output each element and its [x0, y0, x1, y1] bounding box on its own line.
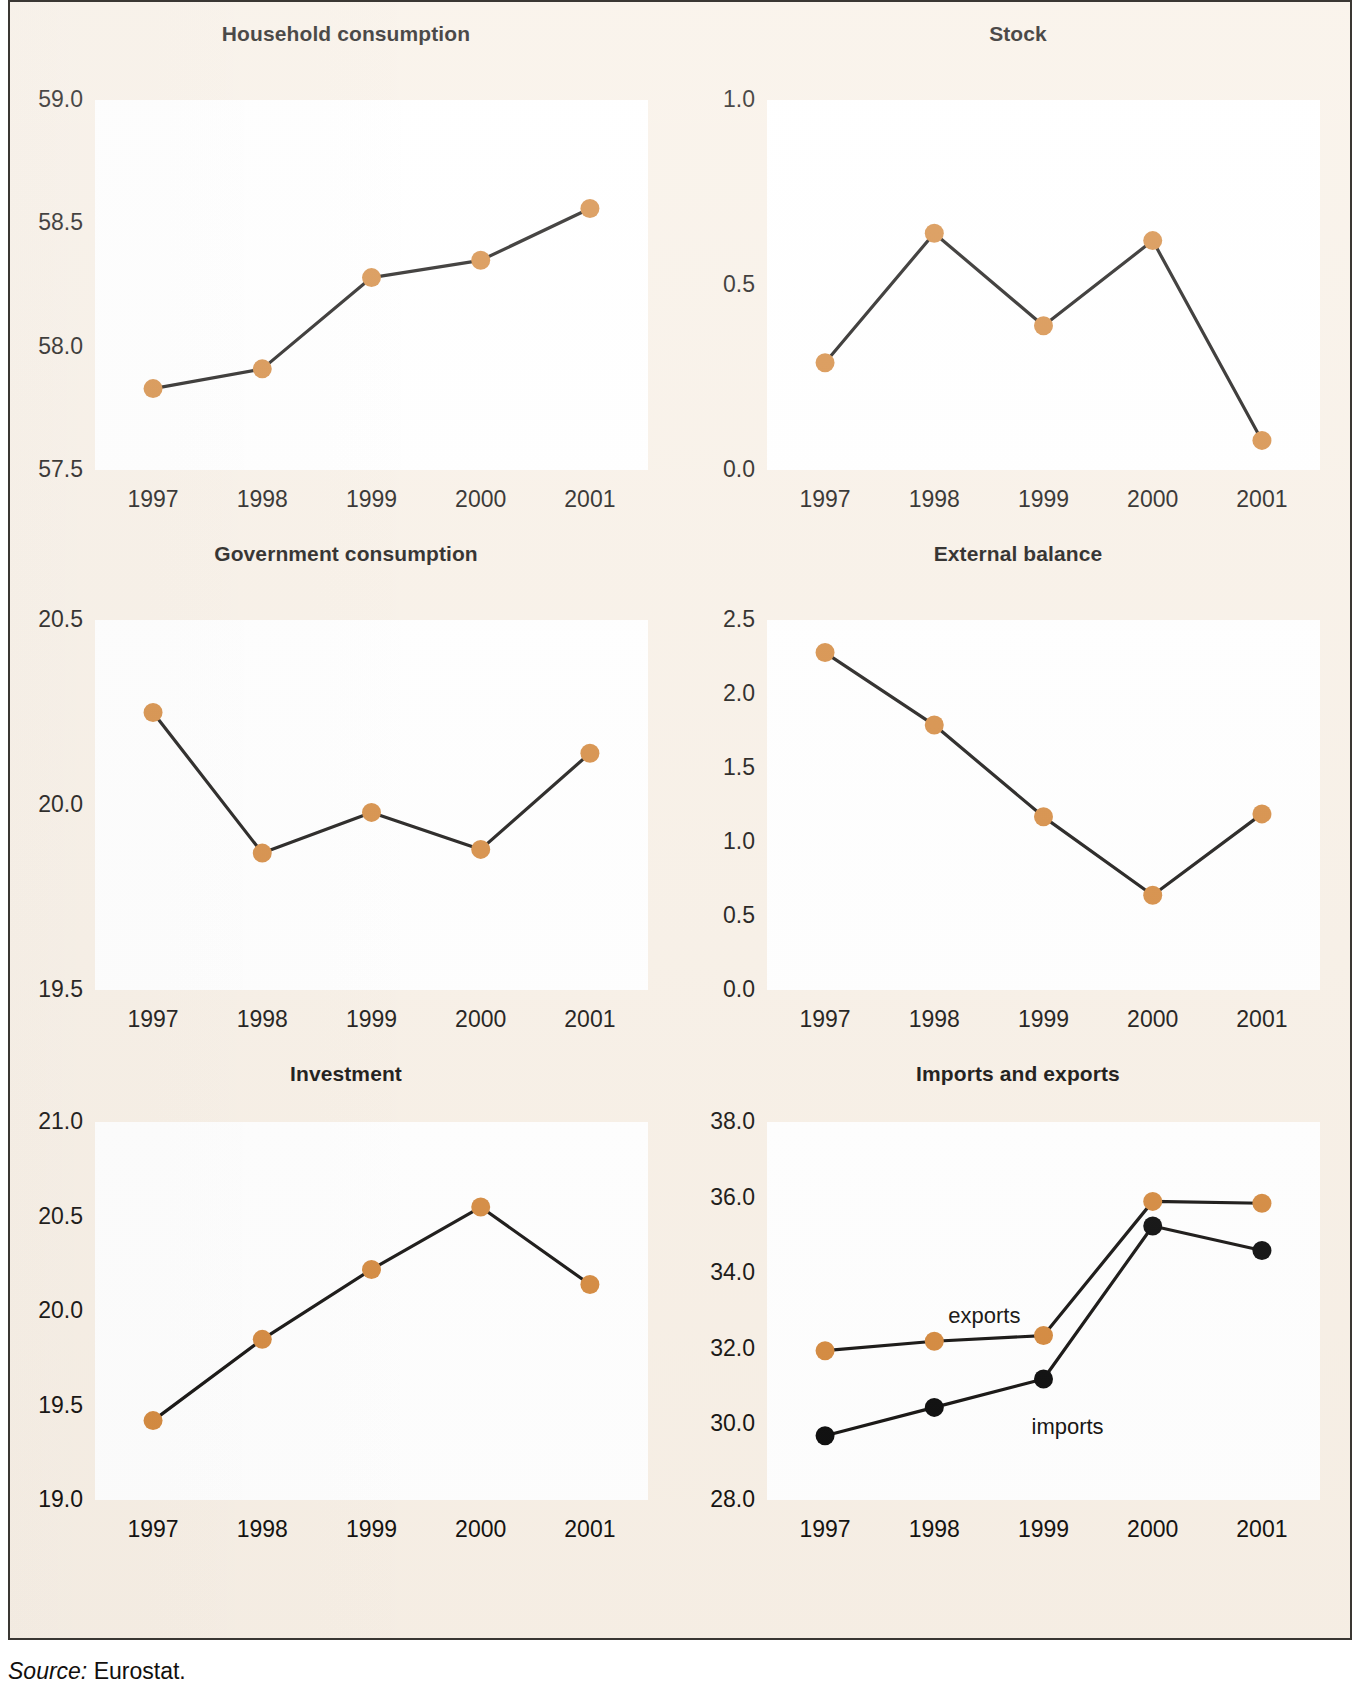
data-point-marker — [1252, 1194, 1271, 1213]
source-value: Eurostat. — [94, 1658, 186, 1684]
data-point-marker — [580, 744, 599, 763]
data-point-marker — [253, 359, 272, 378]
data-point-marker — [925, 716, 944, 735]
data-point-marker — [1143, 1216, 1162, 1235]
data-point-marker — [816, 353, 835, 372]
series-layer — [10, 22, 682, 522]
data-point-marker — [1034, 1370, 1053, 1389]
series-layer — [10, 542, 682, 1042]
data-point-marker — [362, 268, 381, 287]
data-point-marker — [1252, 804, 1271, 823]
data-point-marker — [362, 803, 381, 822]
data-point-marker — [580, 1275, 599, 1294]
series-annotation-exports: exports — [948, 1305, 1020, 1327]
data-point-marker — [580, 199, 599, 218]
chart-household-consumption: Household consumption 57.558.058.559.019… — [10, 22, 682, 522]
series-layer — [10, 1062, 682, 1572]
data-point-marker — [471, 251, 490, 270]
series-annotation-imports: imports — [1032, 1416, 1104, 1438]
data-point-marker — [925, 1398, 944, 1417]
chart-external-balance: External balance 0.00.51.01.52.02.519971… — [682, 542, 1354, 1042]
data-point-marker — [925, 224, 944, 243]
series-line-investment — [153, 1207, 590, 1421]
data-point-marker — [1034, 1326, 1053, 1345]
data-point-marker — [144, 379, 163, 398]
chart-government-consumption: Government consumption 19.520.020.519971… — [10, 542, 682, 1042]
series-line-government-consumption — [153, 713, 590, 854]
data-point-marker — [362, 1260, 381, 1279]
source-note: Source: Eurostat. — [8, 1658, 186, 1685]
figure-panel: Household consumption 57.558.058.559.019… — [8, 0, 1352, 1640]
data-point-marker — [253, 844, 272, 863]
series-line-stock — [825, 233, 1262, 440]
data-point-marker — [144, 1411, 163, 1430]
series-line-household-consumption — [153, 209, 590, 389]
data-point-marker — [1143, 1192, 1162, 1211]
data-point-marker — [816, 1341, 835, 1360]
source-label: Source: — [8, 1658, 87, 1684]
data-point-marker — [471, 840, 490, 859]
series-line-external-balance — [825, 653, 1262, 896]
series-layer — [682, 542, 1354, 1042]
data-point-marker — [1034, 316, 1053, 335]
data-point-marker — [1143, 886, 1162, 905]
data-point-marker — [1252, 1241, 1271, 1260]
chart-investment: Investment 19.019.520.020.521.0199719981… — [10, 1062, 682, 1572]
data-point-marker — [816, 643, 835, 662]
chart-imports-and-exports: Imports and exports 28.030.032.034.036.0… — [682, 1062, 1354, 1572]
data-point-marker — [1143, 231, 1162, 250]
data-point-marker — [925, 1332, 944, 1351]
data-point-marker — [144, 703, 163, 722]
data-point-marker — [253, 1330, 272, 1349]
data-point-marker — [471, 1198, 490, 1217]
chart-stock: Stock 0.00.51.019971998199920002001 — [682, 22, 1354, 522]
series-layer — [682, 22, 1354, 522]
data-point-marker — [1034, 807, 1053, 826]
data-point-marker — [1252, 431, 1271, 450]
data-point-marker — [816, 1426, 835, 1445]
